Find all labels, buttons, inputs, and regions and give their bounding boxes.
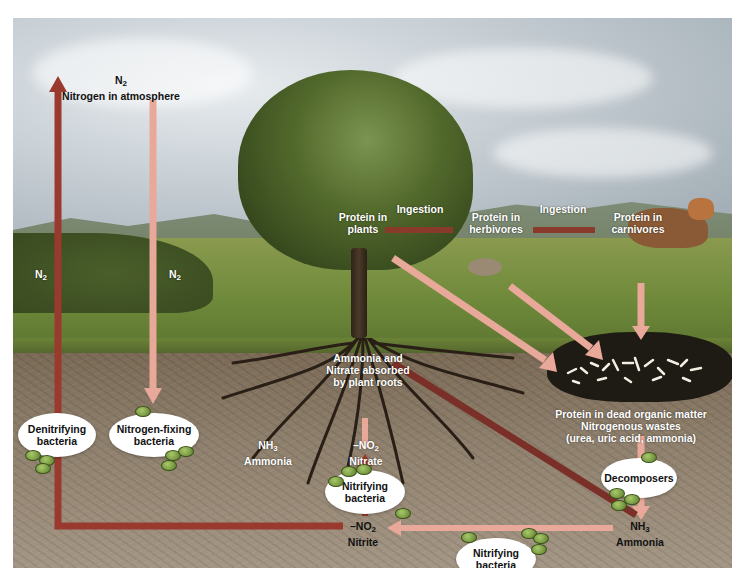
bacteria-cell-icon xyxy=(533,533,549,544)
bacteria-cell-icon xyxy=(611,500,627,511)
nitrogen-fixation-arrow xyxy=(144,100,162,404)
bacteria-cell-icon xyxy=(328,476,344,487)
bacteria-cell-icon xyxy=(609,488,625,499)
nitrogen-cycle-illustration: N2 Nitrogen in atmosphere N2 N2 Ingestio… xyxy=(13,18,732,568)
ammonia-soil-label: NH3 Ammonia xyxy=(238,439,298,467)
root-absorption-label: Ammonia andNitrate absorbedby plant root… xyxy=(313,352,423,388)
dead-organic-matter-label: Protein in dead organic matterNitrogenou… xyxy=(531,408,731,444)
carnivore-decay-arrow xyxy=(632,283,650,340)
bacteria-cell-icon xyxy=(641,452,657,463)
ammonia-to-nitrite-arrow xyxy=(387,520,613,536)
bacteria-cell-icon xyxy=(178,446,194,457)
bacteria-cell-icon xyxy=(531,544,547,555)
n2-denitrification-label: N2 xyxy=(29,268,53,284)
bacteria-cell-icon xyxy=(161,460,177,471)
protein-in-herbivores-label: Protein inherbivores xyxy=(461,211,531,235)
bacteria-cell-icon xyxy=(135,406,151,417)
bacteria-cell-icon xyxy=(341,466,357,477)
n2-fixation-label: N2 xyxy=(163,268,187,284)
denitrification-arrow xyxy=(49,76,343,526)
ammonia-label: NH3 Ammonia xyxy=(610,520,670,548)
protein-in-plants-label: Protein inplants xyxy=(331,211,395,235)
ingestion-label-2: Ingestion xyxy=(528,203,598,215)
protein-in-carnivores-label: Protein incarnivores xyxy=(603,211,673,235)
nitrite-label: –NO2 Nitrite xyxy=(335,520,391,548)
bacteria-cell-icon xyxy=(461,532,477,543)
nitrate-label: –NO2 Nitrate xyxy=(338,439,394,467)
bacteria-cell-icon xyxy=(35,463,51,474)
ingestion-label-1: Ingestion xyxy=(385,203,455,215)
bacteria-cell-icon xyxy=(395,508,411,519)
atmosphere-label: N2 Nitrogen in atmosphere xyxy=(51,74,191,102)
bacteria-cell-icon xyxy=(356,464,372,475)
